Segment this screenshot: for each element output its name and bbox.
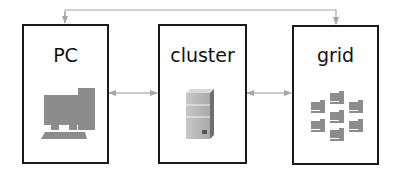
node-cluster: cluster <box>158 24 247 164</box>
node-grid: grid <box>292 25 379 165</box>
networked-computers-icon <box>308 91 366 143</box>
desktop-computer-icon <box>41 88 95 140</box>
edge-pc-grid <box>65 10 336 24</box>
node-grid-label: grid <box>294 44 377 66</box>
node-pc: PC <box>22 24 109 164</box>
node-pc-label: PC <box>24 44 107 66</box>
server-tower-icon <box>186 89 218 139</box>
node-cluster-label: cluster <box>160 44 245 66</box>
